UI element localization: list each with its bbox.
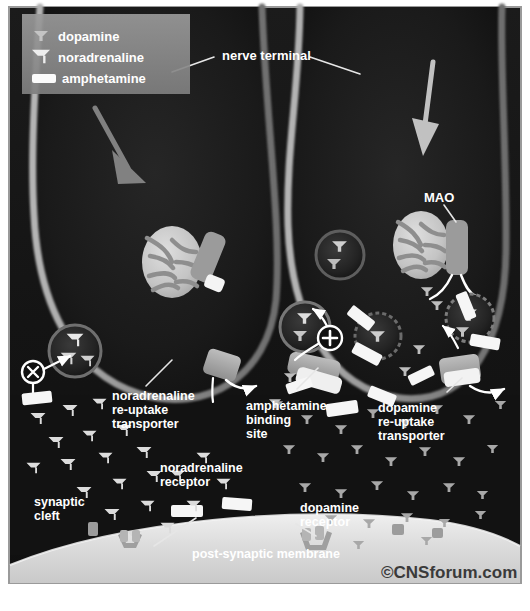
na-receptor-line-1: noradrenaline <box>160 461 243 475</box>
vesicle-left <box>49 325 101 377</box>
diagram-root: dopamine noradrenaline amphetamine nerve… <box>0 0 530 611</box>
synaptic-cleft-line-1: synaptic <box>34 495 85 509</box>
mitochondrion-right <box>393 211 449 279</box>
amph-site-line-3: site <box>246 427 268 441</box>
amph-site-line-2: binding <box>246 413 291 427</box>
amphetamine-bar-icon <box>32 74 56 83</box>
synaptic-cleft-line-2: cleft <box>34 509 61 523</box>
legend-label-amphetamine: amphetamine <box>62 71 146 86</box>
label-nerve-terminal: nerve terminal <box>222 48 311 63</box>
da-receptor-line-2: receptor <box>300 515 350 529</box>
receptor-extra-left[interactable] <box>88 522 98 536</box>
vesicle-right-1 <box>316 231 364 279</box>
da-transporter-line-3: transporter <box>378 429 445 443</box>
legend-label-noradrenaline: noradrenaline <box>58 50 144 65</box>
da-transporter-line-2: re-uptake <box>378 415 434 429</box>
label-mao: MAO <box>424 190 454 205</box>
da-receptor-line-1: dopamine <box>300 501 359 515</box>
amph-site-line-1: amphetamine <box>246 399 327 413</box>
neuron-synapse-illustration: dopamine noradrenaline amphetamine nerve… <box>0 0 530 611</box>
diagram-canvas: dopamine noradrenaline amphetamine nerve… <box>0 0 530 611</box>
da-transporter-line-1: dopamine <box>378 401 437 415</box>
watermark: ©CNSforum.com <box>381 563 517 582</box>
legend-panel: dopamine noradrenaline amphetamine <box>22 14 190 94</box>
na-transporter-line-1: noradrenaline <box>112 389 195 403</box>
mitochondrion-left <box>142 226 202 298</box>
na-transporter-line-3: transporter <box>112 417 179 431</box>
na-receptor-line-2: receptor <box>160 475 210 489</box>
legend-label-dopamine: dopamine <box>58 29 119 44</box>
label-post-synaptic-membrane: post-synaptic membrane <box>192 547 340 561</box>
na-transporter-line-2: re-uptake <box>112 403 168 417</box>
